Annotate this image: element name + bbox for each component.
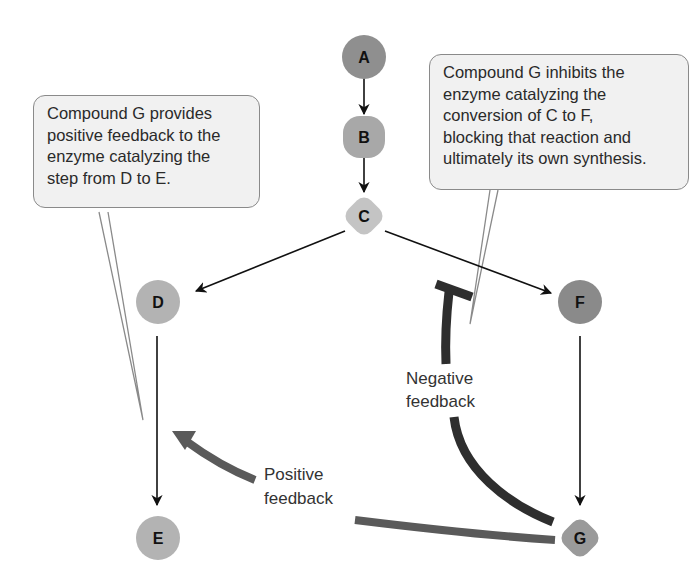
left-callout-line-1: Compound G provides: [47, 103, 249, 125]
right-callout-line-2: enzyme catalyzing the: [443, 84, 678, 106]
left-callout-line-3: enzyme catalyzing the: [47, 146, 249, 168]
node-e: E: [136, 516, 180, 560]
negative-feedback-label: Negative: [406, 369, 473, 388]
node-c: C: [341, 193, 386, 238]
node-a: A: [342, 35, 386, 79]
positive-feedback-label: Positive: [264, 465, 324, 484]
svg-text:B: B: [358, 129, 370, 146]
arrow-c-to-f: [385, 231, 551, 293]
svg-text:D: D: [152, 294, 164, 311]
arrow-c-to-d: [196, 231, 345, 291]
node-f: F: [558, 280, 602, 324]
svg-text:A: A: [358, 49, 370, 66]
node-d: D: [136, 280, 180, 324]
left-callout-line-4: step from D to E.: [47, 168, 249, 190]
right-callout-line-3: conversion of C to F,: [443, 105, 678, 127]
left-callout-pointer: [99, 212, 143, 420]
inhibition-bar-icon: [436, 284, 472, 297]
positive-feedback-label-2: feedback: [264, 489, 333, 508]
left-callout: Compound G provides positive feedback to…: [33, 95, 260, 208]
negative-feedback-label-2: feedback: [406, 392, 475, 411]
right-callout-pointer: [470, 190, 498, 324]
node-b: B: [343, 116, 385, 158]
node-g: G: [557, 515, 602, 560]
right-callout-line-1: Compound G inhibits the: [443, 62, 678, 84]
right-callout-line-4: blocking that reaction and: [443, 127, 678, 149]
svg-text:E: E: [153, 530, 164, 547]
svg-text:G: G: [574, 530, 586, 547]
svg-text:C: C: [358, 208, 370, 225]
right-callout: Compound G inhibits the enzyme catalyzin…: [429, 54, 689, 190]
right-callout-line-5: ultimately its own synthesis.: [443, 148, 678, 170]
left-callout-line-2: positive feedback to the: [47, 125, 249, 147]
svg-text:F: F: [575, 294, 585, 311]
